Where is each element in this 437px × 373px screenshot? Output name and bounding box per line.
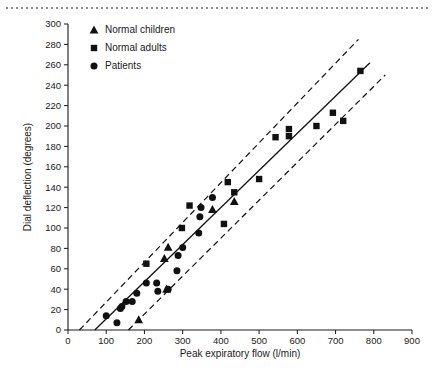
legend-marker-square	[91, 45, 97, 51]
legend-label: Normal children	[105, 24, 175, 35]
x-tick-label: 200	[137, 335, 153, 346]
series-patients	[103, 194, 216, 326]
y-tick-label: 20	[50, 304, 61, 315]
y-tick-label: 0	[56, 324, 61, 335]
x-tick-label: 100	[98, 335, 114, 346]
x-tick-label: 400	[213, 335, 229, 346]
data-point	[153, 280, 160, 287]
data-point	[221, 221, 227, 227]
data-point	[164, 243, 173, 251]
x-tick-label: 600	[289, 335, 305, 346]
data-point	[225, 179, 231, 185]
y-tick-label: 260	[45, 59, 61, 70]
x-axis-tick-labels: 0100200300400500600700800900	[65, 335, 420, 346]
y-tick-label: 200	[45, 120, 61, 131]
legend-marker-triangle	[90, 25, 99, 33]
data-point	[209, 194, 216, 201]
data-point	[173, 267, 180, 274]
data-point	[123, 298, 130, 305]
y-tick-label: 80	[50, 243, 61, 254]
data-point	[208, 205, 217, 213]
y-tick-label: 160	[45, 161, 61, 172]
data-point	[113, 319, 120, 326]
trend-lines	[79, 39, 385, 330]
y-tick-label: 140	[45, 182, 61, 193]
data-point	[160, 254, 169, 262]
data-point	[272, 134, 278, 140]
data-point	[179, 225, 185, 231]
data-point	[313, 123, 319, 129]
data-point	[196, 213, 203, 220]
x-tick-label: 300	[175, 335, 191, 346]
x-axis-title: Peak expiratory flow (l/min)	[180, 348, 301, 359]
y-tick-label: 220	[45, 100, 61, 111]
data-point	[143, 280, 150, 287]
data-point	[340, 118, 346, 124]
series-normal-children	[134, 197, 238, 323]
data-point	[143, 261, 149, 267]
scatter-plot: 0204060801001201401601802002202402602803…	[0, 0, 437, 373]
x-tick-label: 900	[404, 335, 420, 346]
data-point	[231, 189, 237, 195]
y-tick-label: 280	[45, 39, 61, 50]
data-point	[179, 244, 186, 251]
data-point	[256, 176, 262, 182]
data-point	[165, 286, 172, 293]
series-normal-adults	[143, 68, 363, 267]
data-point	[186, 202, 192, 208]
y-tick-label: 240	[45, 80, 61, 91]
y-tick-label: 180	[45, 141, 61, 152]
data-point	[154, 288, 161, 295]
legend-marker-circle	[91, 63, 98, 70]
x-tick-label: 0	[65, 335, 70, 346]
x-tick-label: 700	[328, 335, 344, 346]
legend-label: Patients	[105, 60, 141, 71]
x-tick-label: 500	[251, 335, 267, 346]
data-point	[286, 133, 292, 139]
data-point	[134, 315, 143, 323]
data-point	[129, 298, 136, 305]
data-point	[103, 312, 110, 319]
upper-limit-line	[79, 39, 358, 330]
figure-container: 0204060801001201401601802002202402602803…	[0, 0, 437, 373]
y-tick-label: 40	[50, 284, 61, 295]
data-point	[286, 126, 292, 132]
data-point	[330, 110, 336, 116]
chart-legend: Normal childrenNormal adultsPatients	[90, 24, 175, 71]
data-point	[195, 230, 202, 237]
y-tick-label: 60	[50, 263, 61, 274]
y-axis-tick-labels: 0204060801001201401601802002202402602803…	[45, 18, 61, 335]
y-tick-label: 100	[45, 222, 61, 233]
data-point	[133, 290, 140, 297]
x-tick-label: 800	[366, 335, 382, 346]
y-tick-label: 120	[45, 202, 61, 213]
data-point	[175, 252, 182, 259]
legend-label: Normal adults	[105, 42, 167, 53]
data-point	[198, 204, 205, 211]
data-point	[357, 68, 363, 74]
y-axis-title: Dial deflection (degrees)	[22, 123, 33, 231]
y-tick-label: 300	[45, 18, 61, 29]
